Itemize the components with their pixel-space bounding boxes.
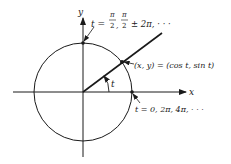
svg-text:,: , — [116, 21, 119, 30]
x-axis-label: x — [189, 87, 194, 97]
top-fraction-1: π 2 — [109, 11, 116, 30]
svg-text:π: π — [109, 11, 115, 19]
svg-text:π: π — [121, 11, 127, 19]
top-pointer — [84, 27, 94, 41]
point-on-circle — [120, 60, 124, 64]
angle-arc — [104, 76, 109, 92]
point-right — [130, 90, 134, 94]
svg-text:2: 2 — [122, 22, 126, 30]
top-point-label-rest: ± 2π, · · · — [131, 19, 171, 29]
y-axis-label: y — [77, 7, 84, 17]
top-point-label-prefix: t = — [91, 19, 105, 29]
point-top — [81, 41, 85, 45]
point-pointer — [124, 62, 134, 64]
top-fraction-2: π 2 — [121, 11, 128, 30]
right-pointer — [133, 94, 140, 103]
angle-label: t — [111, 79, 115, 89]
unit-circle-diagram: t y x t = π 2 , π 2 ± 2π, · · · (x, y) =… — [0, 0, 231, 164]
svg-text:2: 2 — [110, 22, 114, 30]
right-point-label: t = 0, 2π, 4π, · · · — [135, 105, 204, 114]
point-label: (x, y) = (cos t, sin t) — [134, 61, 214, 70]
